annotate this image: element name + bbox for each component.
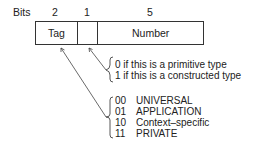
pc-arrow	[89, 48, 106, 70]
number-field: Number	[132, 27, 169, 39]
pc-note-constructed: 1 if this is a constructed type	[115, 70, 241, 82]
tag-width: 2	[52, 6, 58, 18]
pc-width: 1	[84, 6, 90, 18]
number-width: 5	[147, 6, 153, 18]
class-code-private: 11	[115, 128, 125, 140]
pc-brace	[106, 57, 113, 82]
tag-field: Tag	[48, 27, 65, 39]
class-name-private: PRIVATE	[136, 128, 177, 140]
tag-arrow	[61, 48, 106, 117]
class-brace	[106, 97, 113, 138]
bits-label: Bits	[13, 6, 31, 18]
